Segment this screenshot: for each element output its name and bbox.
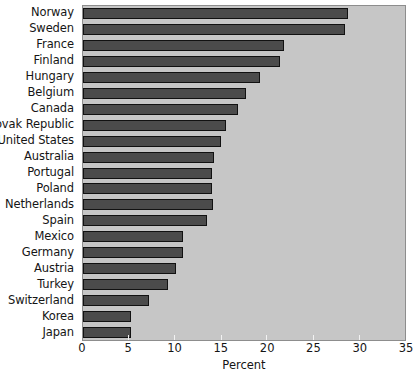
category-axis: NorwaySwedenFranceFinlandHungaryBelgiumC… xyxy=(0,5,78,341)
category-label: Switzerland xyxy=(0,293,78,309)
bar xyxy=(83,24,345,35)
category-label: Mexico xyxy=(0,229,78,245)
category-label: Spain xyxy=(0,213,78,229)
bar-row xyxy=(83,245,405,261)
x-tick-label: 5 xyxy=(125,343,132,355)
plot-area xyxy=(82,5,406,341)
category-label: Norway xyxy=(0,5,78,21)
bar-row xyxy=(83,165,405,181)
bar xyxy=(83,40,284,51)
bar-row xyxy=(83,229,405,245)
category-label: Japan xyxy=(0,325,78,341)
bar xyxy=(83,263,176,274)
category-label: Sweden xyxy=(0,21,78,37)
x-tick-label: 30 xyxy=(352,343,367,355)
bar xyxy=(83,8,348,19)
bar xyxy=(83,247,183,258)
category-label: Korea xyxy=(0,309,78,325)
bar xyxy=(83,279,168,290)
x-axis-tick-labels: 05101520253035 xyxy=(82,343,406,359)
bar xyxy=(83,72,260,83)
category-label: Canada xyxy=(0,101,78,117)
bar-row xyxy=(83,133,405,149)
category-label: Poland xyxy=(0,181,78,197)
bar xyxy=(83,88,246,99)
x-tick-label: 15 xyxy=(214,343,229,355)
category-label: Slovak Republic xyxy=(0,117,78,133)
x-tick-label: 25 xyxy=(306,343,321,355)
category-label: Belgium xyxy=(0,85,78,101)
category-label: Finland xyxy=(0,53,78,69)
bar xyxy=(83,168,212,179)
bar xyxy=(83,56,280,67)
bar-row xyxy=(83,54,405,70)
x-tick-label: 10 xyxy=(167,343,182,355)
category-label: Austria xyxy=(0,261,78,277)
bar xyxy=(83,183,212,194)
bar xyxy=(83,215,207,226)
x-tick-label: 0 xyxy=(78,343,85,355)
bar-row xyxy=(83,101,405,117)
bar xyxy=(83,295,149,306)
bar xyxy=(83,327,131,338)
bar-row xyxy=(83,292,405,308)
bar xyxy=(83,152,214,163)
bar-row xyxy=(83,181,405,197)
bar-chart: NorwaySwedenFranceFinlandHungaryBelgiumC… xyxy=(0,0,415,377)
bar-row xyxy=(83,38,405,54)
category-label: Portugal xyxy=(0,165,78,181)
bar xyxy=(83,104,238,115)
bar xyxy=(83,311,131,322)
x-tick-label: 20 xyxy=(260,343,275,355)
category-label: Australia xyxy=(0,149,78,165)
bar-row xyxy=(83,117,405,133)
x-axis-title: Percent xyxy=(82,360,406,372)
bar-row xyxy=(83,6,405,22)
bar-row xyxy=(83,261,405,277)
category-label: Hungary xyxy=(0,69,78,85)
bar xyxy=(83,231,183,242)
bar xyxy=(83,199,213,210)
bar-row xyxy=(83,86,405,102)
bar-row xyxy=(83,70,405,86)
bar-row xyxy=(83,213,405,229)
category-label: United States xyxy=(0,133,78,149)
bars-layer xyxy=(83,6,405,340)
bar xyxy=(83,136,221,147)
bar-row xyxy=(83,22,405,38)
category-label: Germany xyxy=(0,245,78,261)
bar-row xyxy=(83,308,405,324)
bar-row xyxy=(83,276,405,292)
category-label: Netherlands xyxy=(0,197,78,213)
category-label: Turkey xyxy=(0,277,78,293)
bar-row xyxy=(83,324,405,340)
bar-row xyxy=(83,197,405,213)
category-label: France xyxy=(0,37,78,53)
x-tick-label: 35 xyxy=(399,343,414,355)
bar-row xyxy=(83,149,405,165)
bar xyxy=(83,120,226,131)
